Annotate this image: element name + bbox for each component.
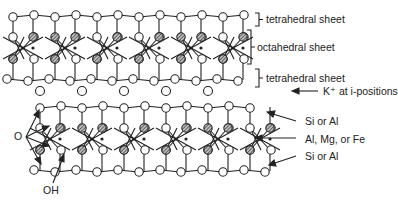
- arrows: [26, 88, 318, 183]
- label-si-al-bottom: Si or Al: [305, 150, 338, 162]
- label-tetrahedral-top: tetrahedral sheet: [266, 13, 345, 25]
- label-octa-cation: Al, Mg, or Fe: [305, 133, 365, 145]
- label-hydroxyl: OH: [43, 184, 59, 196]
- label-si-al-top: Si or Al: [305, 115, 338, 127]
- label-oxygen: O: [14, 130, 22, 142]
- label-tetrahedral-bottom: tetrahedral sheet: [266, 72, 345, 84]
- label-octahedral: octahedral sheet: [257, 41, 335, 53]
- label-k-ion: K⁺ at i-positions: [323, 85, 398, 97]
